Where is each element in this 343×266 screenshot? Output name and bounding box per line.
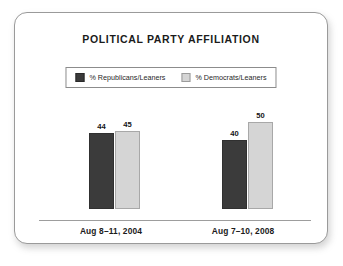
bar-rect-republicans-2004 bbox=[89, 133, 114, 209]
legend-label-democrats: % Democrats/Leaners bbox=[195, 73, 266, 82]
legend-label-republicans: % Republicans/Leaners bbox=[89, 73, 165, 82]
bar-republicans-2008: 40 bbox=[222, 130, 247, 209]
legend-item-democrats: % Democrats/Leaners bbox=[181, 73, 266, 82]
x-axis-label-2004: Aug 8–11, 2004 bbox=[53, 226, 169, 236]
legend-swatch-republicans-icon bbox=[75, 73, 84, 82]
legend-swatch-democrats-icon bbox=[181, 73, 190, 82]
bar-value-republicans-2008: 40 bbox=[230, 130, 238, 138]
bar-value-democrats-2008: 50 bbox=[256, 112, 264, 120]
legend-item-republicans: % Republicans/Leaners bbox=[75, 73, 165, 82]
plot-area: 44 45 40 50 bbox=[39, 105, 311, 209]
bar-rect-democrats-2008 bbox=[248, 122, 273, 209]
bar-democrats-2008: 50 bbox=[248, 112, 273, 209]
bar-group-2008: 40 50 bbox=[222, 112, 273, 209]
bar-rect-republicans-2008 bbox=[222, 140, 247, 209]
x-axis-line bbox=[39, 220, 311, 221]
bar-rect-democrats-2004 bbox=[115, 131, 140, 209]
x-axis-label-2008: Aug 7–10, 2008 bbox=[185, 226, 301, 236]
bar-value-republicans-2004: 44 bbox=[97, 123, 105, 131]
bar-democrats-2004: 45 bbox=[115, 121, 140, 209]
chart-card: POLITICAL PARTY AFFILIATION % Republican… bbox=[14, 12, 328, 244]
bar-value-democrats-2004: 45 bbox=[123, 121, 131, 129]
bar-republicans-2004: 44 bbox=[89, 123, 114, 209]
bar-group-2004: 44 45 bbox=[89, 121, 140, 209]
page-title: POLITICAL PARTY AFFILIATION bbox=[15, 33, 327, 45]
chart-legend: % Republicans/Leaners % Democrats/Leaner… bbox=[65, 67, 276, 88]
